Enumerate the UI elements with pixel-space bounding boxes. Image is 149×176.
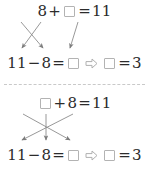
implies-arrow-icon-2 (85, 150, 98, 161)
worksheet-sheet: 8+=11 11−8= =3 +8=11 (0, 0, 149, 176)
block-2-plus-operator: + (53, 94, 68, 112)
implies-arrow-icon-1 (85, 58, 98, 69)
block-2-answer-box-top[interactable] (40, 98, 51, 109)
block-2-top-equation: +8=11 (0, 94, 149, 112)
block-1-equals-1: = (51, 54, 66, 72)
dashed-divider (4, 84, 145, 85)
block-1-answer-value: 3 (132, 54, 142, 72)
block-1-sum: 11 (92, 2, 112, 20)
arrow-8-to-difference (21, 22, 43, 48)
block-2-addend-2: 8 (67, 94, 77, 112)
arrow-box-to-difference (23, 114, 70, 140)
block-1-equals-2: = (117, 54, 132, 72)
block-1-bottom-equation: 11−8= =3 (0, 54, 149, 72)
block-1-plus-operator: + (47, 2, 62, 20)
block-1-addend-1: 8 (38, 2, 48, 20)
block-1-equals-top: = (77, 2, 92, 20)
block-2-answer-box-result[interactable] (104, 150, 115, 161)
block-2-subtrahend: 8 (42, 146, 52, 164)
arrow-11-to-subtrahend (70, 22, 78, 48)
block-1-answer-box-top[interactable] (64, 6, 75, 17)
block-2-bottom-equation: 11−8= =3 (0, 146, 149, 164)
problem-block-2: +8=11 11−8= =3 (0, 90, 149, 176)
block-2-answer-value: 3 (132, 146, 142, 164)
problem-block-1: 8+=11 11−8= =3 (0, 0, 149, 80)
block-1-minus-operator: − (27, 54, 42, 72)
block-2-difference-box[interactable] (68, 150, 79, 161)
arrow-11-to-minuend (22, 114, 73, 140)
block-2-sum: 11 (92, 94, 112, 112)
block-1-subtrahend: 8 (42, 54, 52, 72)
block-2-equals-2: = (117, 146, 132, 164)
block-1-difference-box[interactable] (68, 58, 79, 69)
block-2-minus-operator: − (27, 146, 42, 164)
block-1-answer-box-result[interactable] (104, 58, 115, 69)
block-1-minuend: 11 (7, 54, 27, 72)
block-2-minuend: 11 (7, 146, 27, 164)
arrow-box-to-minuend (22, 22, 41, 48)
block-1-top-equation: 8+=11 (0, 2, 149, 20)
block-2-equals-1: = (51, 146, 66, 164)
block-2-equals-top: = (77, 94, 92, 112)
